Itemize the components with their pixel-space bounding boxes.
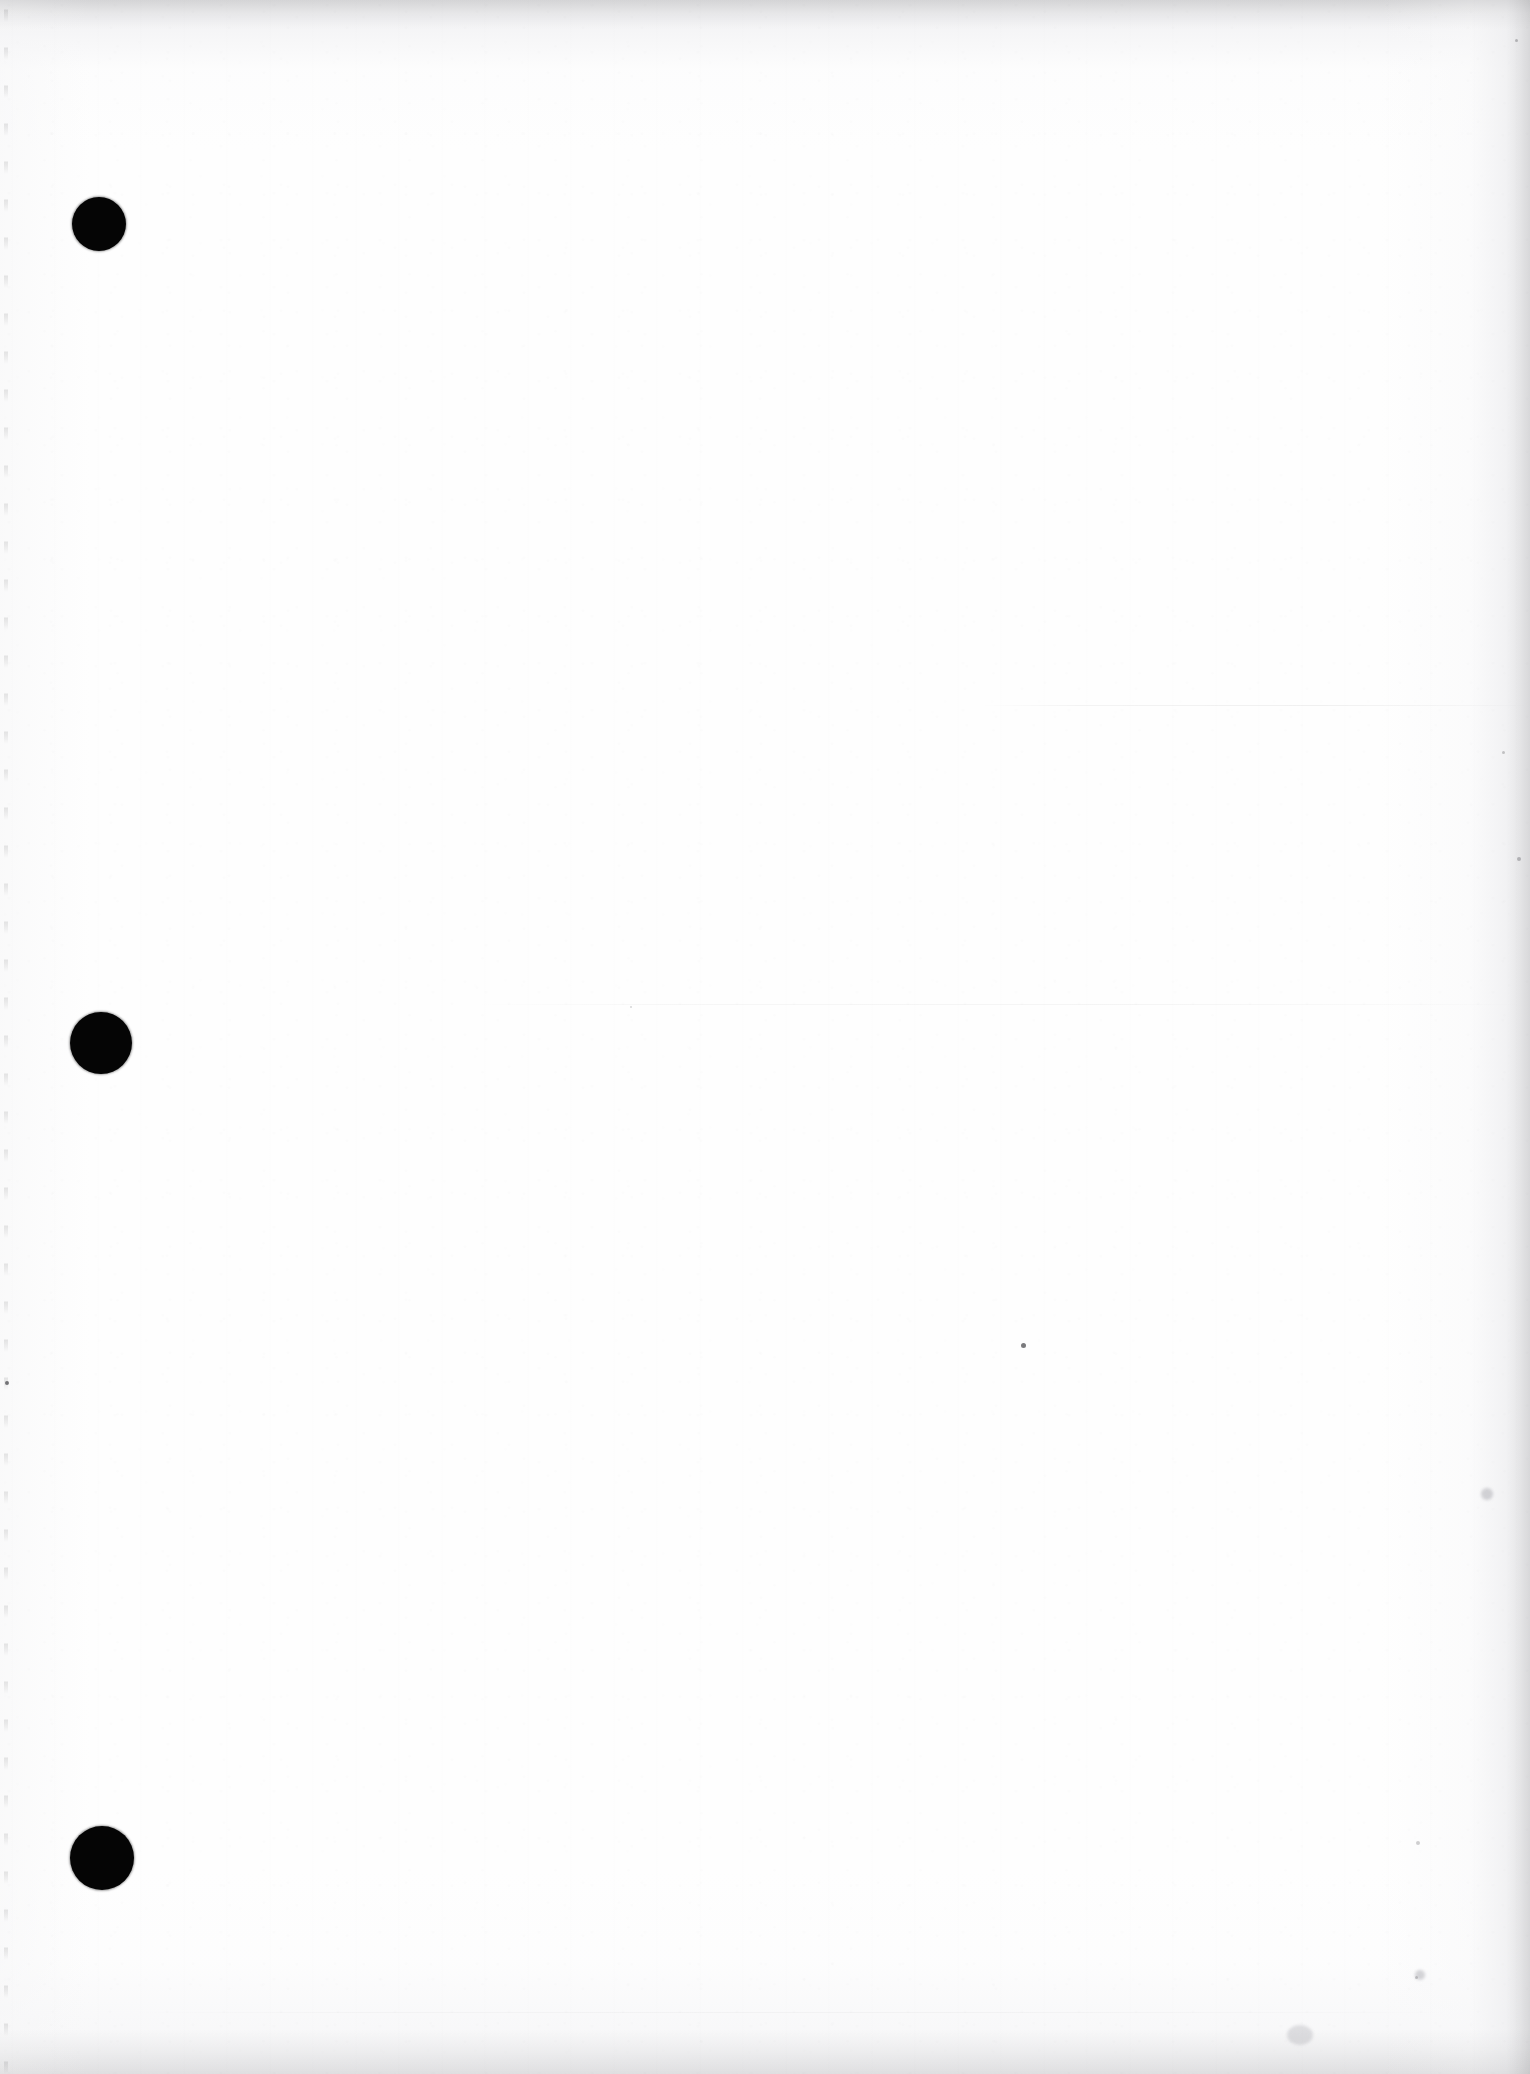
hole-punch-middle — [70, 1012, 132, 1074]
page-content-area — [170, 120, 1430, 1960]
hole-punch-top — [72, 197, 126, 251]
scanned-page — [0, 0, 1530, 2074]
hole-punch-bottom — [70, 1826, 134, 1890]
